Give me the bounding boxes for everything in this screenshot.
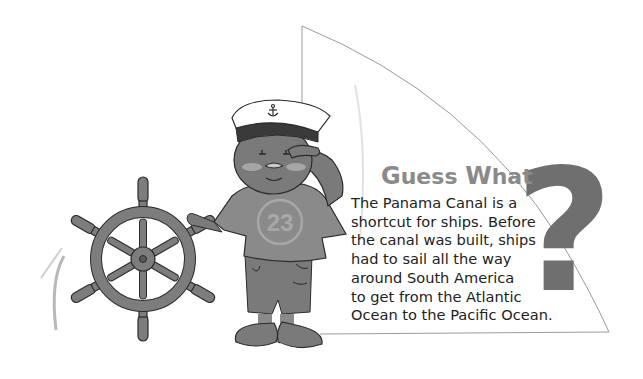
callout-line: shortcut for ships. Before — [351, 213, 641, 232]
callout-line: Ocean to the Pacific Ocean. — [351, 306, 641, 325]
motion-lines — [41, 248, 64, 330]
illustration-scene: 23 — [0, 0, 643, 379]
ship-wheel-icon — [69, 177, 216, 341]
callout-line: to get from the Atlantic — [351, 288, 641, 307]
callout-line: the canal was built, ships — [351, 231, 641, 250]
callout-body: The Panama Canal is a shortcut for ships… — [351, 194, 641, 325]
shirt-number: 23 — [267, 209, 294, 236]
callout-line: had to sail all the way — [351, 250, 641, 269]
callout-line: The Panama Canal is a — [351, 194, 641, 213]
sailor-boy-figure: 23 — [187, 100, 346, 350]
callout-line: around South America — [351, 269, 641, 288]
callout-title: Guess What — [381, 162, 533, 190]
